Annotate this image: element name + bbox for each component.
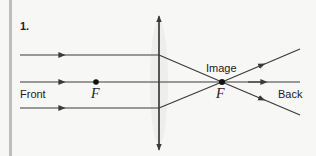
front-label: Front: [20, 88, 46, 100]
back-focal-label: F: [216, 86, 225, 102]
back-label: Back: [278, 88, 302, 100]
back-focal-point: [219, 79, 225, 85]
front-focal-point: [93, 79, 99, 85]
image-label: Image: [206, 62, 237, 74]
front-focal-label: F: [91, 86, 100, 102]
converging-lens-diagram: [0, 0, 316, 156]
